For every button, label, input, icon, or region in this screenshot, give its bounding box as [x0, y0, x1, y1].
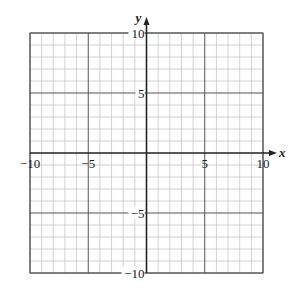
y-tick-label: −5: [131, 206, 145, 221]
y-tick-label: −10: [124, 266, 144, 281]
x-tick-label: −10: [20, 156, 40, 171]
x-tick-label: 10: [257, 156, 270, 171]
x-tick-label: 5: [202, 156, 209, 171]
y-tick-label: 5: [138, 86, 145, 101]
y-axis-label: y: [134, 10, 142, 25]
x-axis-arrow-icon: [269, 150, 277, 156]
x-tick-label: −5: [81, 156, 95, 171]
x-axis-label: x: [278, 145, 286, 160]
y-tick-label: 10: [132, 26, 145, 41]
y-axis-arrow-icon: [144, 17, 150, 25]
coordinate-plane: −10−5510105−5−10 x y: [0, 0, 298, 294]
